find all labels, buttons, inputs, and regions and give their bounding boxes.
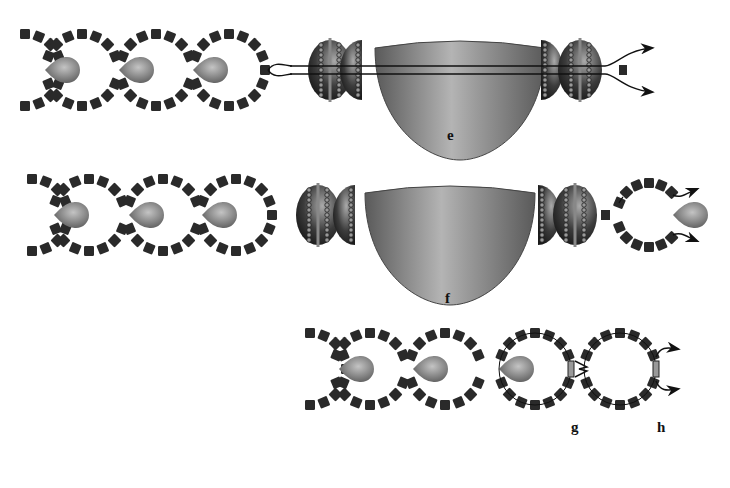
panel-gh-diagram	[305, 328, 678, 410]
droplet-protein	[54, 202, 89, 228]
block-subunit	[77, 101, 87, 111]
block-subunit	[254, 233, 268, 247]
bead-dot	[307, 228, 311, 232]
block-subunit	[224, 101, 234, 111]
bead-dot	[349, 203, 353, 207]
block-subunit	[89, 30, 102, 43]
block-subunit	[337, 336, 351, 350]
block-subunit	[365, 400, 375, 410]
bead-dot	[337, 93, 341, 97]
block-subunit	[472, 376, 485, 389]
panel-f-diagram	[27, 174, 708, 305]
block-subunit	[32, 97, 45, 110]
block-subunit	[62, 97, 75, 110]
bead-dot	[543, 68, 547, 72]
bead-dot	[307, 238, 311, 242]
bead-dot	[564, 228, 568, 232]
bead-dot	[582, 213, 586, 217]
block-subunit	[143, 175, 156, 188]
block-subunit	[412, 336, 426, 350]
block-subunit	[440, 400, 450, 410]
block-subunit	[136, 97, 149, 110]
large-protein-body	[375, 41, 545, 160]
small-block	[619, 65, 627, 75]
block-subunit	[163, 97, 176, 110]
block-subunit	[243, 175, 256, 188]
bead-dot	[307, 223, 311, 227]
block-subunit	[305, 400, 315, 410]
bead-dot	[582, 208, 586, 212]
block-subunit	[256, 50, 269, 63]
block-subunit	[350, 329, 363, 342]
block-subunit	[69, 242, 82, 255]
bead-dot	[540, 218, 544, 222]
block-subunit	[665, 231, 679, 245]
block-subunit	[317, 396, 330, 409]
bead-dot	[569, 68, 573, 72]
block-subunit	[305, 328, 315, 338]
block-subunit	[89, 97, 102, 110]
block-subunit	[62, 30, 75, 43]
bead-dot	[582, 203, 586, 207]
arrow-down	[605, 74, 652, 92]
bead-dot	[569, 48, 573, 52]
block-subunit	[174, 88, 188, 102]
bead-dot	[540, 213, 544, 217]
bead-dot	[325, 228, 329, 232]
bead-dot	[349, 233, 353, 237]
bead-dot	[587, 68, 591, 72]
bead-dot	[564, 238, 568, 242]
block-subunit	[158, 246, 168, 256]
bead-dot	[349, 223, 353, 227]
bead-dot	[307, 218, 311, 222]
block-subunit	[216, 175, 229, 188]
bead-dot	[356, 53, 360, 57]
bead-dot	[319, 78, 323, 82]
strand-curve	[268, 70, 292, 76]
block-subunit	[247, 37, 261, 51]
bead-dot	[569, 88, 573, 92]
bead-dot	[543, 83, 547, 87]
block-subunit	[365, 328, 375, 338]
bead-dot	[540, 188, 544, 192]
bead-dot	[325, 198, 329, 202]
block-subunit	[452, 396, 465, 409]
block-subunit	[39, 242, 52, 255]
droplet-protein	[129, 202, 164, 228]
arrow-up	[605, 48, 652, 66]
block-subunit	[231, 246, 241, 256]
block-subunit	[181, 182, 195, 196]
terminus-clamp	[653, 361, 659, 377]
bead-dot	[543, 58, 547, 62]
block-subunit	[377, 329, 390, 342]
bead-dot	[356, 93, 360, 97]
bead-dot	[582, 218, 586, 222]
bead-dot	[582, 228, 586, 232]
bead-dot	[543, 78, 547, 82]
bead-dot	[325, 193, 329, 197]
strand-circle	[584, 333, 656, 405]
block-subunit	[69, 175, 82, 188]
block-subunit	[613, 221, 626, 234]
bead-dot	[564, 193, 568, 197]
bead-dot	[569, 78, 573, 82]
bead-dot	[356, 68, 360, 72]
block-subunit	[84, 174, 94, 184]
panel-label-h: h	[657, 419, 666, 435]
block-subunit	[350, 396, 363, 409]
bead-dot	[337, 88, 341, 92]
bead-dot	[587, 58, 591, 62]
block-subunit	[158, 174, 168, 184]
bead-dot	[307, 188, 311, 192]
bead-dot	[540, 233, 544, 237]
block-subunit	[440, 328, 450, 338]
block-subunit	[39, 175, 52, 188]
bead-dot	[307, 208, 311, 212]
bead-dot	[307, 198, 311, 202]
strand-curve	[268, 64, 292, 70]
block-subunit	[665, 185, 679, 199]
block-subunit	[163, 30, 176, 43]
block-subunit	[263, 195, 276, 208]
block-subunit	[151, 29, 161, 39]
bead-dot	[540, 198, 544, 202]
